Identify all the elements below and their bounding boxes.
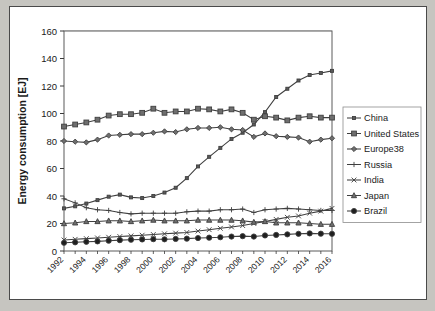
marker-filled-square [207, 107, 212, 112]
marker-filled-square [184, 109, 189, 114]
legend-item-label: Japan [364, 191, 389, 201]
marker-filled-circle [218, 235, 223, 240]
marker-filled-square [140, 110, 145, 115]
marker-small-square [308, 74, 311, 77]
marker-filled-square [263, 114, 268, 119]
marker-filled-circle [296, 231, 301, 236]
marker-filled-circle [106, 238, 111, 243]
x-tick-label: 1998 [112, 254, 133, 275]
marker-filled-square [352, 131, 357, 136]
marker-filled-circle [184, 236, 189, 241]
x-tick-label: 1994 [67, 254, 88, 275]
marker-small-square [286, 87, 289, 90]
y-tick-label: 60 [46, 163, 57, 174]
legend-item-label: India [364, 175, 385, 185]
marker-filled-square [274, 115, 279, 120]
legend-item-label: China [364, 113, 389, 123]
y-tick-label: 160 [41, 26, 57, 37]
x-tick-label: 1996 [89, 254, 110, 275]
marker-small-square [275, 96, 278, 99]
y-tick-label: 0 [52, 246, 57, 257]
marker-filled-square [307, 114, 312, 119]
x-tick-label: 1992 [45, 254, 66, 275]
y-tick-label: 120 [41, 81, 57, 92]
x-tick-label: 2008 [223, 254, 244, 275]
marker-filled-circle [262, 233, 267, 238]
marker-filled-square [251, 117, 256, 122]
x-tick-label: 2014 [290, 254, 311, 275]
legend-item-label: United States [364, 129, 420, 139]
marker-small-square [185, 177, 188, 180]
marker-filled-circle [117, 238, 122, 243]
marker-filled-circle [251, 234, 256, 239]
marker-small-square [163, 191, 166, 194]
marker-small-square [197, 165, 200, 168]
x-axis-ticks-group: 1992199419961998200020022004200620082010… [45, 251, 334, 275]
x-tick-label: 2002 [156, 254, 177, 275]
marker-filled-circle [61, 240, 66, 245]
marker-small-square [219, 146, 222, 149]
marker-small-square [174, 186, 177, 189]
marker-filled-circle [151, 237, 156, 242]
y-axis-ticks-group: 020406080100120140160 [41, 26, 64, 257]
marker-small-square [230, 137, 233, 140]
marker-filled-square [173, 109, 178, 114]
marker-filled-square [129, 112, 134, 117]
marker-small-square [319, 71, 322, 74]
legend-item-label: Europe38 [364, 144, 404, 154]
marker-filled-circle [307, 231, 312, 236]
marker-small-square [141, 197, 144, 200]
marker-small-square [130, 196, 133, 199]
x-tick-label: 2016 [313, 254, 334, 275]
marker-filled-circle [274, 232, 279, 237]
y-tick-label: 20 [46, 218, 57, 229]
marker-filled-square [162, 110, 167, 115]
marker-filled-square [117, 112, 122, 117]
marker-filled-circle [318, 231, 323, 236]
marker-filled-circle [207, 235, 212, 240]
marker-small-square [96, 199, 99, 202]
y-tick-label: 40 [46, 191, 57, 202]
marker-filled-square [196, 106, 201, 111]
x-tick-label: 2012 [268, 254, 289, 275]
marker-filled-circle [162, 237, 167, 242]
x-tick-label: 2004 [179, 254, 200, 275]
marker-filled-circle [128, 237, 133, 242]
marker-filled-circle [84, 239, 89, 244]
marker-filled-circle [240, 234, 245, 239]
marker-filled-square [296, 115, 301, 120]
marker-filled-square [151, 106, 156, 111]
x-tick-label: 2000 [134, 254, 155, 275]
marker-filled-square [84, 120, 89, 125]
marker-filled-square [106, 113, 111, 118]
marker-filled-circle [73, 240, 78, 245]
marker-filled-square [240, 110, 245, 115]
marker-small-square [107, 195, 110, 198]
marker-small-square [118, 193, 121, 196]
marker-filled-square [73, 122, 78, 127]
marker-small-square [85, 202, 88, 205]
y-tick-label: 80 [46, 136, 57, 147]
marker-filled-circle [229, 234, 234, 239]
legend-item-label: Brazil [364, 206, 387, 216]
y-axis-title: Energy consumption [EJ] [16, 77, 28, 204]
marker-filled-circle [351, 208, 356, 213]
marker-filled-square [62, 124, 67, 129]
marker-small-square [297, 79, 300, 82]
marker-small-square [264, 111, 267, 114]
marker-filled-square [218, 109, 223, 114]
energy-consumption-line-chart: 020406080100120140160 199219941996199820… [10, 7, 425, 298]
marker-filled-square [229, 107, 234, 112]
marker-small-square [208, 155, 211, 158]
marker-small-square [63, 207, 66, 210]
screenshot-page: 020406080100120140160 199219941996199820… [0, 0, 435, 311]
marker-filled-circle [195, 235, 200, 240]
marker-small-square [331, 69, 334, 72]
marker-filled-square [285, 118, 290, 123]
chart-figure-frame: 020406080100120140160 199219941996199820… [9, 6, 427, 300]
marker-small-square [252, 123, 255, 126]
marker-filled-circle [329, 231, 334, 236]
marker-filled-square [95, 117, 100, 122]
y-tick-label: 100 [41, 108, 57, 119]
marker-filled-circle [173, 236, 178, 241]
